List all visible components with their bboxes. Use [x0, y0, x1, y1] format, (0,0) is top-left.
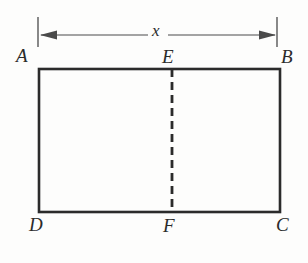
- dimension-label-x: x: [148, 22, 164, 39]
- arrowhead-right-icon: [259, 31, 276, 40]
- vertex-label-d: D: [29, 215, 43, 234]
- vertex-label-b: B: [281, 47, 293, 66]
- arrowhead-left-icon: [40, 31, 57, 40]
- vertex-label-f: F: [163, 216, 175, 235]
- vertex-label-a: A: [16, 46, 28, 65]
- rectangle-abcd: [39, 69, 280, 212]
- vertex-label-e: E: [162, 47, 174, 66]
- geometry-figure: A B C D E F x: [0, 0, 308, 263]
- vertex-label-c: C: [276, 215, 289, 234]
